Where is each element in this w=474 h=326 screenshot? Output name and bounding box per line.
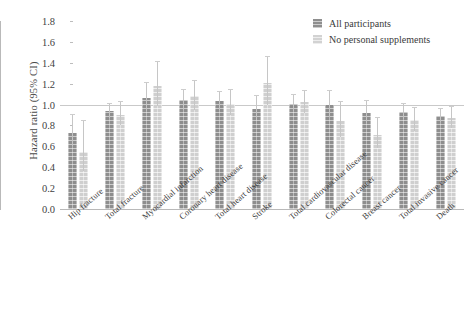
error-bar xyxy=(146,83,147,111)
bar[interactable] xyxy=(300,102,309,209)
error-bar-cap-upper xyxy=(155,61,160,62)
error-bar-cap-upper xyxy=(412,107,417,108)
error-bar xyxy=(451,107,452,128)
bar-group xyxy=(68,21,88,209)
error-bar-cap-upper xyxy=(375,117,380,118)
error-bar-cap-upper xyxy=(302,90,307,91)
legend-swatch-icon xyxy=(313,19,322,28)
error-bar-cap-upper xyxy=(449,106,454,107)
error-bar xyxy=(194,81,195,110)
bar[interactable] xyxy=(190,96,199,209)
y-tick-label: 0.6 xyxy=(15,141,55,152)
error-bar-cap-upper xyxy=(228,89,233,90)
error-bar-cap-upper xyxy=(181,89,186,90)
legend-item[interactable]: All participants xyxy=(313,16,430,31)
error-bar-cap-upper xyxy=(107,103,112,104)
error-bar-cap-upper xyxy=(291,94,296,95)
error-bar-cap-upper xyxy=(217,91,222,92)
error-bar xyxy=(329,91,330,117)
error-bar-cap-upper xyxy=(401,103,406,104)
legend-label: All participants xyxy=(329,18,391,29)
error-bar xyxy=(377,118,378,148)
bar[interactable] xyxy=(362,113,371,209)
error-bar-cap-upper xyxy=(254,95,259,96)
error-bar xyxy=(440,109,441,123)
bar[interactable] xyxy=(436,116,445,209)
bar[interactable] xyxy=(325,105,334,209)
bar-group xyxy=(105,21,125,209)
error-bar xyxy=(414,108,415,131)
error-bar-cap-upper xyxy=(265,56,270,57)
error-bar xyxy=(183,90,184,110)
error-bar xyxy=(120,102,121,125)
error-bar-cap-upper xyxy=(364,100,369,101)
y-tick-label: 0.2 xyxy=(15,183,55,194)
y-tick-label: 0.8 xyxy=(15,120,55,131)
y-tick-label: 1.0 xyxy=(15,99,55,110)
bar[interactable] xyxy=(447,118,456,209)
y-tick-label: 1.6 xyxy=(15,36,55,47)
bar[interactable] xyxy=(399,112,408,209)
y-tick-label: 0.0 xyxy=(15,204,55,215)
error-bar-cap-upper xyxy=(144,82,149,83)
error-bar xyxy=(157,62,158,106)
bar-group xyxy=(399,21,419,209)
hazard-ratio-bar-chart: Hazard ratio (95% CI) 0.00.20.40.60.81.0… xyxy=(0,0,474,326)
bar-group xyxy=(142,21,162,209)
bar-group xyxy=(289,21,309,209)
error-bar-cap-upper xyxy=(81,120,86,121)
error-bar xyxy=(72,115,73,146)
legend-label: No personal supplements xyxy=(329,34,430,45)
error-bar xyxy=(109,104,110,119)
y-axis-line xyxy=(0,21,1,210)
bar[interactable] xyxy=(142,98,151,209)
bar[interactable] xyxy=(179,100,188,209)
error-bar-cap-upper xyxy=(327,90,332,91)
error-bar xyxy=(83,121,84,171)
error-bar-cap-upper xyxy=(70,114,75,115)
error-bar-cap-upper xyxy=(192,80,197,81)
bar[interactable] xyxy=(226,104,235,209)
y-tick-label: 0.4 xyxy=(15,162,55,173)
y-tick-label: 1.2 xyxy=(15,78,55,89)
bar[interactable] xyxy=(289,104,298,209)
error-bar xyxy=(230,90,231,115)
y-tick-label: 1.4 xyxy=(15,57,55,68)
error-bar-cap-upper xyxy=(338,101,343,102)
error-bar xyxy=(267,57,268,105)
error-bar-cap-upper xyxy=(438,108,443,109)
error-bar xyxy=(256,96,257,120)
chart-legend: All participantsNo personal supplements xyxy=(313,16,430,48)
bar[interactable] xyxy=(252,109,261,209)
legend-swatch-icon xyxy=(313,35,322,44)
error-bar-cap-upper xyxy=(118,101,123,102)
y-axis-tick-labels: 0.00.20.40.60.81.01.21.41.61.8 xyxy=(11,21,55,209)
legend-item[interactable]: No personal supplements xyxy=(313,32,430,47)
bar[interactable] xyxy=(215,101,224,209)
y-tick-label: 1.8 xyxy=(15,16,55,27)
error-bar xyxy=(340,102,341,136)
error-bar xyxy=(293,95,294,111)
error-bar xyxy=(304,91,305,113)
error-bar xyxy=(403,104,404,120)
error-bar xyxy=(366,101,367,123)
error-bar xyxy=(219,92,220,110)
bar[interactable] xyxy=(105,111,114,209)
